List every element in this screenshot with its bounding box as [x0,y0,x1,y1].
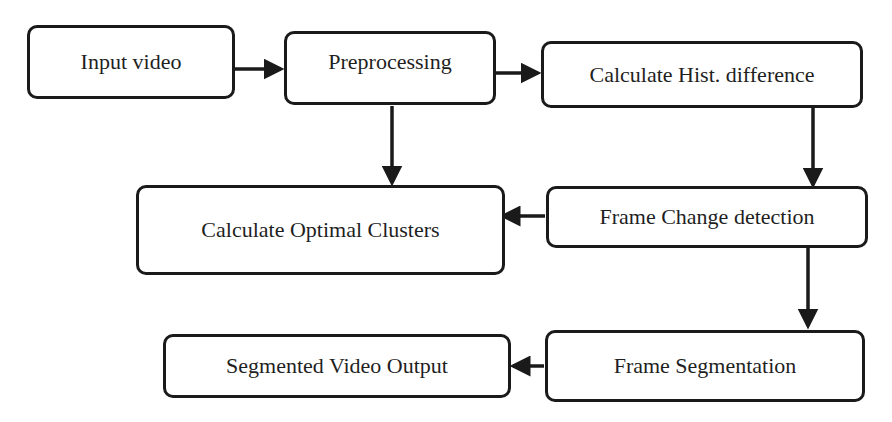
node-input-video: Input video [27,25,235,99]
node-label: Preprocessing [328,49,451,75]
node-label: Calculate Hist. difference [590,62,815,88]
node-frame-change-detection: Frame Change detection [546,186,868,248]
node-label: Calculate Optimal Clusters [201,217,439,243]
node-frame-segmentation: Frame Segmentation [545,330,865,402]
node-label: Input video [81,49,182,75]
node-label: Frame Change detection [599,204,814,230]
node-calculate-hist-difference: Calculate Hist. difference [541,41,863,108]
node-segmented-video-output: Segmented Video Output [163,334,511,398]
node-label: Frame Segmentation [614,353,797,379]
node-preprocessing: Preprocessing [284,31,496,105]
node-label: Segmented Video Output [226,353,448,379]
node-calculate-optimal-clusters: Calculate Optimal Clusters [136,185,505,275]
